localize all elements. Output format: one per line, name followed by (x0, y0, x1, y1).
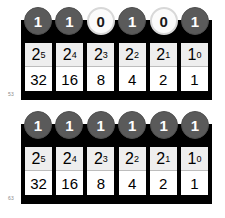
power-base: 2 (125, 151, 134, 167)
power-label: 25 (25, 147, 52, 171)
power-label: 21 (150, 147, 177, 171)
figure-caption-bottom: 63 (8, 196, 14, 201)
place-value-cell-1: 21 2 (150, 43, 177, 91)
bit-cell-5[interactable]: 1 (24, 7, 52, 35)
power-base: 2 (156, 47, 165, 63)
decimal-label: 32 (25, 67, 52, 91)
power-label: 22 (119, 147, 146, 171)
bit-value: 1 (128, 14, 136, 29)
bit-cell-1[interactable]: 1 (150, 111, 178, 139)
place-value-cell-2: 22 4 (119, 147, 146, 195)
bit-value: 1 (97, 118, 105, 133)
bit-value: 1 (65, 118, 73, 133)
decimal-label: 32 (25, 171, 52, 195)
power-label: 21 (150, 43, 177, 67)
decimal-label: 2 (150, 171, 177, 195)
decimal-label: 16 (56, 67, 83, 91)
place-value-cell-5: 25 32 (25, 43, 52, 91)
place-value-cell-0: 10 1 (181, 147, 208, 195)
place-value-cell-2: 22 4 (119, 43, 146, 91)
place-value-cell-3: 23 8 (87, 43, 114, 91)
decimal-label: 8 (87, 67, 114, 91)
bit-cell-3[interactable]: 0 (87, 7, 115, 35)
place-value-row-top: 25 32 24 16 23 8 22 4 21 2 10 1 (21, 43, 212, 91)
place-value-cell-0: 10 1 (181, 43, 208, 91)
power-base: 2 (125, 47, 134, 63)
bit-cell-1[interactable]: 0 (150, 7, 178, 35)
bit-value: 1 (159, 118, 167, 133)
bit-value: 1 (191, 118, 199, 133)
decimal-label: 4 (119, 67, 146, 91)
power-base: 2 (63, 47, 72, 63)
bit-cell-4[interactable]: 1 (55, 111, 83, 139)
power-label: 25 (25, 43, 52, 67)
bit-cell-2[interactable]: 1 (118, 7, 146, 35)
power-base: 2 (94, 47, 103, 63)
bit-cell-4[interactable]: 1 (55, 7, 83, 35)
bit-cell-2[interactable]: 1 (118, 111, 146, 139)
power-label: 10 (181, 43, 208, 67)
place-value-row-bottom: 25 32 24 16 23 8 22 4 21 2 10 1 (21, 147, 212, 195)
power-base: 1 (187, 151, 196, 167)
power-base: 2 (94, 151, 103, 167)
bit-value: 0 (97, 14, 105, 29)
power-base: 1 (187, 47, 196, 63)
binary-place-value-figure: 1 1 0 1 0 1 25 32 24 16 23 8 22 4 (0, 0, 225, 218)
place-value-cell-4: 24 16 (56, 43, 83, 91)
binary-panel-bottom: 1 1 1 1 1 1 25 32 24 16 23 8 22 4 (21, 124, 212, 204)
power-label: 10 (181, 147, 208, 171)
bit-row-bottom: 1 1 1 1 1 1 (21, 111, 212, 141)
bit-value: 1 (34, 14, 42, 29)
power-base: 2 (32, 47, 41, 63)
bit-value: 1 (191, 14, 199, 29)
power-base: 2 (32, 151, 41, 167)
bit-cell-5[interactable]: 1 (24, 111, 52, 139)
decimal-label: 1 (181, 171, 208, 195)
power-base: 2 (156, 151, 165, 167)
bit-cell-0[interactable]: 1 (181, 111, 209, 139)
power-label: 23 (87, 147, 114, 171)
figure-caption-top: 53 (8, 92, 14, 97)
power-base: 2 (63, 151, 72, 167)
place-value-cell-3: 23 8 (87, 147, 114, 195)
decimal-label: 16 (56, 171, 83, 195)
bit-value: 1 (65, 14, 73, 29)
bit-value: 0 (159, 14, 167, 29)
bit-cell-0[interactable]: 1 (181, 7, 209, 35)
decimal-label: 1 (181, 67, 208, 91)
power-label: 24 (56, 43, 83, 67)
bit-value: 1 (128, 118, 136, 133)
binary-panel-top: 1 1 0 1 0 1 25 32 24 16 23 8 22 4 (21, 20, 212, 100)
bit-cell-3[interactable]: 1 (87, 111, 115, 139)
decimal-label: 2 (150, 67, 177, 91)
decimal-label: 4 (119, 171, 146, 195)
place-value-cell-1: 21 2 (150, 147, 177, 195)
power-label: 23 (87, 43, 114, 67)
bit-row-top: 1 1 0 1 0 1 (21, 7, 212, 37)
bit-value: 1 (34, 118, 42, 133)
place-value-cell-5: 25 32 (25, 147, 52, 195)
power-label: 24 (56, 147, 83, 171)
place-value-cell-4: 24 16 (56, 147, 83, 195)
decimal-label: 8 (87, 171, 114, 195)
power-label: 22 (119, 43, 146, 67)
